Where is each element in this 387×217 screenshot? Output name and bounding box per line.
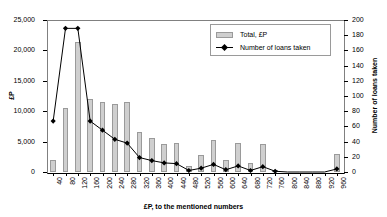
y-tick-label-right: 60	[352, 122, 382, 129]
line-marker	[223, 167, 228, 172]
line-marker	[236, 163, 241, 168]
legend-item-total: Total, £P	[216, 29, 267, 40]
x-tick-label: 720	[266, 177, 273, 199]
x-tick-label: 680	[254, 177, 261, 199]
x-tick-label: 200	[106, 177, 113, 199]
line-marker	[75, 26, 80, 31]
x-tick-mark	[66, 173, 67, 176]
x-tick-mark	[140, 173, 141, 176]
x-tick-label: 640	[241, 177, 248, 199]
y-tick-mark-right	[344, 81, 348, 82]
x-tick-label: 80	[69, 177, 76, 199]
x-tick-label: 880	[315, 177, 322, 199]
x-tick-mark	[238, 173, 239, 176]
x-tick-label: 920	[328, 177, 335, 199]
x-tick-label: 560	[217, 177, 224, 199]
y-tick-label-right: 100	[352, 92, 382, 99]
x-tick-label: 320	[143, 177, 150, 199]
y-tick-mark-right	[344, 50, 348, 51]
x-tick-mark	[312, 173, 313, 176]
x-tick-label: 360	[155, 177, 162, 199]
x-tick-label: 120	[81, 177, 88, 199]
legend-item-label: Number of loans taken	[240, 44, 310, 51]
y-tick-mark-left	[43, 172, 47, 173]
y-tick-mark-right	[344, 142, 348, 143]
y-tick-mark-right	[344, 20, 348, 21]
x-tick-label: 960	[340, 177, 347, 199]
legend-item-label: Total, £P	[240, 31, 267, 38]
x-tick-mark	[288, 173, 289, 176]
line-marker	[211, 162, 216, 167]
y-tick-mark-right	[344, 35, 348, 36]
x-tick-label: 400	[167, 177, 174, 199]
line-marker	[162, 160, 167, 165]
x-tick-mark	[78, 173, 79, 176]
x-tick-label: 760	[278, 177, 285, 199]
y-tick-mark-right	[344, 111, 348, 112]
y-tick-label-left: 20,000	[0, 46, 35, 53]
chart-container: £P Number of loans taken £P, to the ment…	[0, 0, 387, 217]
line-marker	[174, 161, 179, 166]
x-tick-mark	[226, 173, 227, 176]
x-tick-mark	[164, 173, 165, 176]
line-marker	[149, 158, 154, 163]
line-marker	[63, 26, 68, 31]
y-tick-mark-right	[344, 126, 348, 127]
y-tick-label-left: 0	[0, 168, 35, 175]
x-tick-label: 520	[204, 177, 211, 199]
y-tick-label-right: 200	[352, 16, 382, 23]
line-marker	[51, 118, 56, 123]
x-tick-mark	[300, 173, 301, 176]
x-tick-label: 440	[180, 177, 187, 199]
x-tick-label: 240	[118, 177, 125, 199]
x-axis-label: £P, to the mentioned numbers	[0, 203, 387, 210]
y-tick-mark-right	[344, 66, 348, 67]
x-tick-mark	[325, 173, 326, 176]
y-tick-mark-right	[344, 172, 348, 173]
legend-item-loans: Number of loans taken	[216, 42, 310, 53]
y-tick-label-right: 0	[352, 168, 382, 175]
y-tick-label-right: 80	[352, 107, 382, 114]
x-tick-label: 600	[229, 177, 236, 199]
x-tick-mark	[337, 173, 338, 176]
legend-line-swatch-icon	[216, 44, 233, 51]
y-tick-label-right: 180	[352, 31, 382, 38]
x-tick-mark	[177, 173, 178, 176]
x-tick-label: 800	[291, 177, 298, 199]
line-marker	[260, 164, 265, 169]
chart-legend: Total, £P Number of loans taken	[210, 24, 331, 56]
x-tick-mark	[53, 173, 54, 176]
y-tick-label-left: 10,000	[0, 107, 35, 114]
y-tick-label-right: 140	[352, 62, 382, 69]
x-tick-mark	[152, 173, 153, 176]
x-tick-mark	[201, 173, 202, 176]
y-tick-label-right: 160	[352, 46, 382, 53]
x-tick-mark	[263, 173, 264, 176]
x-tick-mark	[214, 173, 215, 176]
x-tick-mark	[127, 173, 128, 176]
line-marker	[334, 166, 339, 171]
y-tick-label-right: 40	[352, 138, 382, 145]
x-tick-label: 40	[56, 177, 63, 199]
x-tick-label: 840	[303, 177, 310, 199]
y-tick-label-left: 15,000	[0, 77, 35, 84]
legend-bar-swatch-icon	[216, 32, 233, 38]
y-tick-label-left: 5,000	[0, 138, 35, 145]
x-tick-mark	[251, 173, 252, 176]
y-tick-mark-right	[344, 96, 348, 97]
x-tick-label: 480	[192, 177, 199, 199]
y-tick-label-right: 20	[352, 153, 382, 160]
x-tick-mark	[115, 173, 116, 176]
x-tick-mark	[189, 173, 190, 176]
x-tick-label: 160	[93, 177, 100, 199]
y-tick-mark-right	[344, 157, 348, 158]
y-tick-label-left: 25,000	[0, 16, 35, 23]
x-tick-mark	[90, 173, 91, 176]
y-tick-label-right: 120	[352, 77, 382, 84]
x-tick-label: 280	[130, 177, 137, 199]
line-marker	[199, 166, 204, 171]
x-tick-mark	[103, 173, 104, 176]
